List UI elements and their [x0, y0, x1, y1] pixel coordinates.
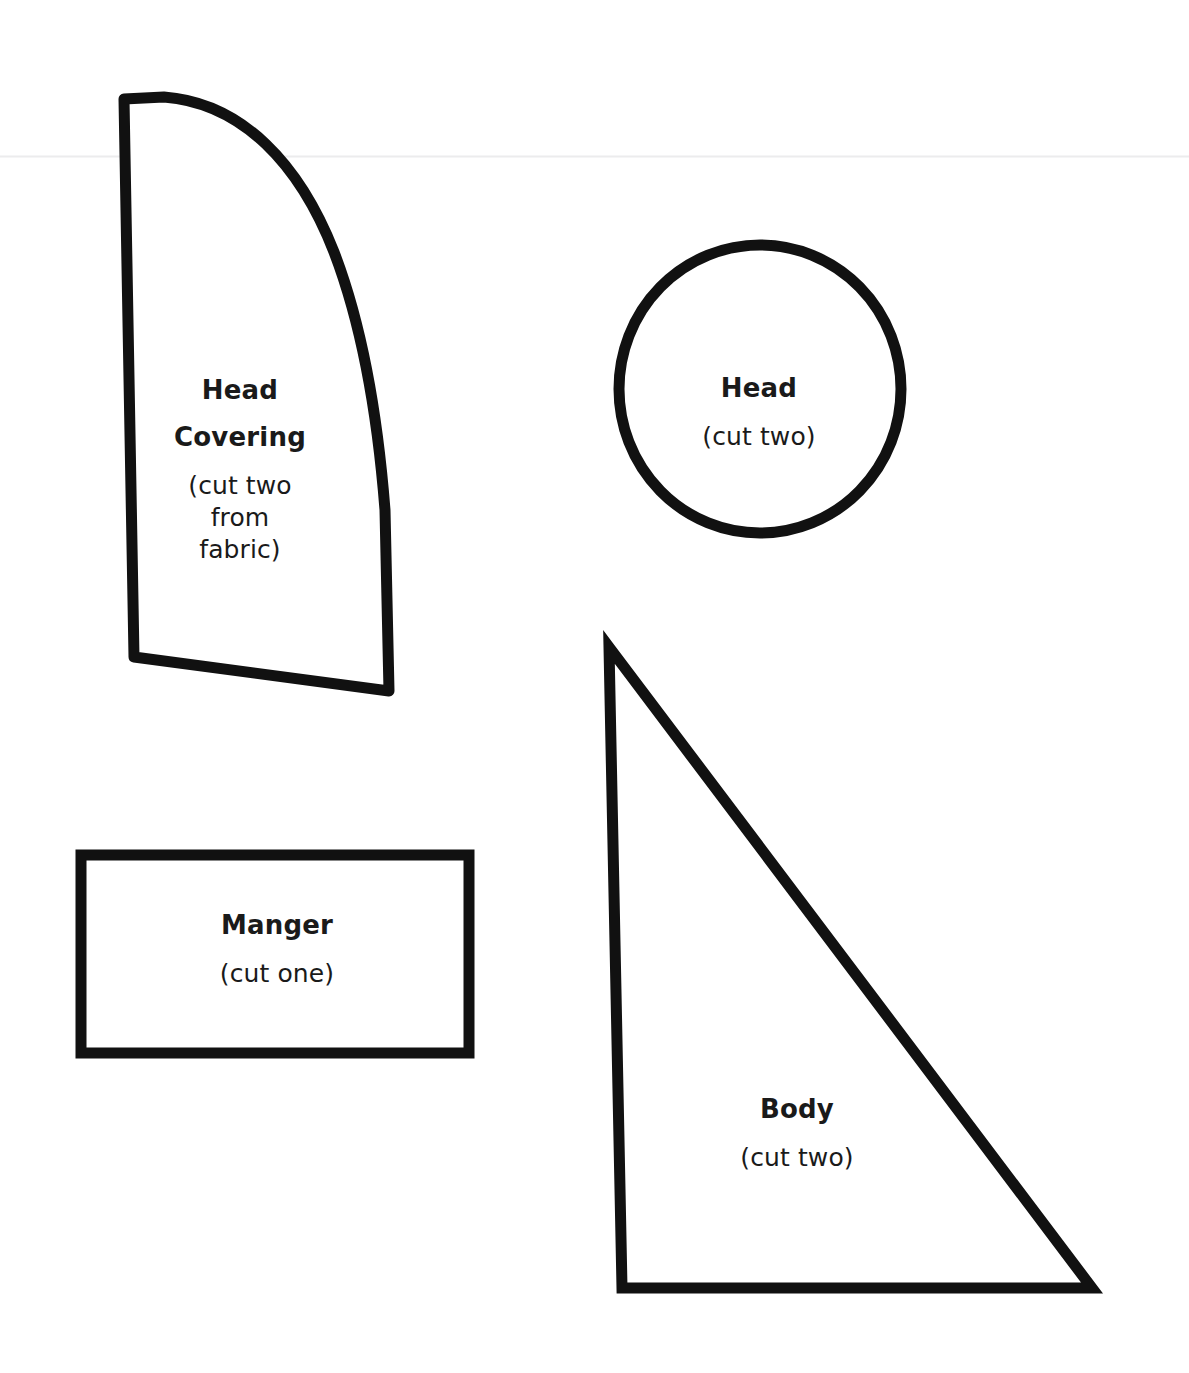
piece-subtitle-body: (cut two) — [694, 1142, 900, 1173]
piece-title-head-covering-line2: Covering — [140, 423, 340, 452]
piece-label-body: Body (cut two) — [694, 1077, 900, 1191]
pattern-sheet: Head Covering (cut two from fabric) Head… — [0, 0, 1189, 1373]
piece-label-head-covering: Head Covering (cut two from fabric) — [140, 358, 340, 584]
piece-title-body: Body — [694, 1095, 900, 1124]
piece-subtitle-manger: (cut one) — [174, 958, 380, 989]
piece-subtitle-head-covering: (cut two from fabric) — [140, 470, 340, 566]
shape-body-triangle — [609, 647, 1092, 1288]
piece-label-head: Head (cut two) — [659, 356, 859, 470]
piece-title-head-covering-line1: Head — [140, 376, 340, 405]
piece-label-manger: Manger (cut one) — [174, 893, 380, 1007]
piece-subtitle-head: (cut two) — [659, 421, 859, 452]
pattern-shapes-canvas — [0, 0, 1189, 1373]
piece-title-manger: Manger — [174, 911, 380, 940]
piece-title-head: Head — [659, 374, 859, 403]
